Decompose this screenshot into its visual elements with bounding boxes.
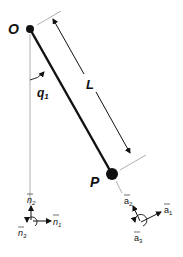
bob-extension-line	[116, 181, 122, 193]
dimension-extension-top	[37, 11, 61, 25]
pivot-point	[26, 25, 34, 33]
n1-label: n1	[53, 217, 61, 228]
frame-a: a1 a2 a3	[124, 195, 173, 244]
n2-label: n2	[27, 195, 36, 206]
frame-n: n1 n2 n3	[18, 194, 61, 239]
length-arrow-upper	[53, 19, 84, 74]
bob-label: P	[90, 174, 100, 190]
a2-label: a2	[124, 196, 133, 207]
length-label: L	[86, 77, 94, 92]
n3-label: n3	[18, 228, 27, 239]
a2-axis-arrow	[133, 206, 140, 221]
length-arrow-lower	[96, 92, 130, 153]
bob-point	[106, 168, 118, 180]
angle-arc	[30, 72, 44, 80]
pendulum-diagram: O P L q1 n1 n2 n3 a1 a2 a3	[0, 0, 183, 257]
a1-axis-arrow	[141, 212, 161, 222]
pivot-label: O	[8, 21, 19, 37]
a3-label: a3	[134, 233, 143, 244]
angle-label: q1	[37, 86, 49, 101]
a1-label: a1	[164, 205, 173, 216]
dimension-extension-bottom	[120, 155, 146, 170]
